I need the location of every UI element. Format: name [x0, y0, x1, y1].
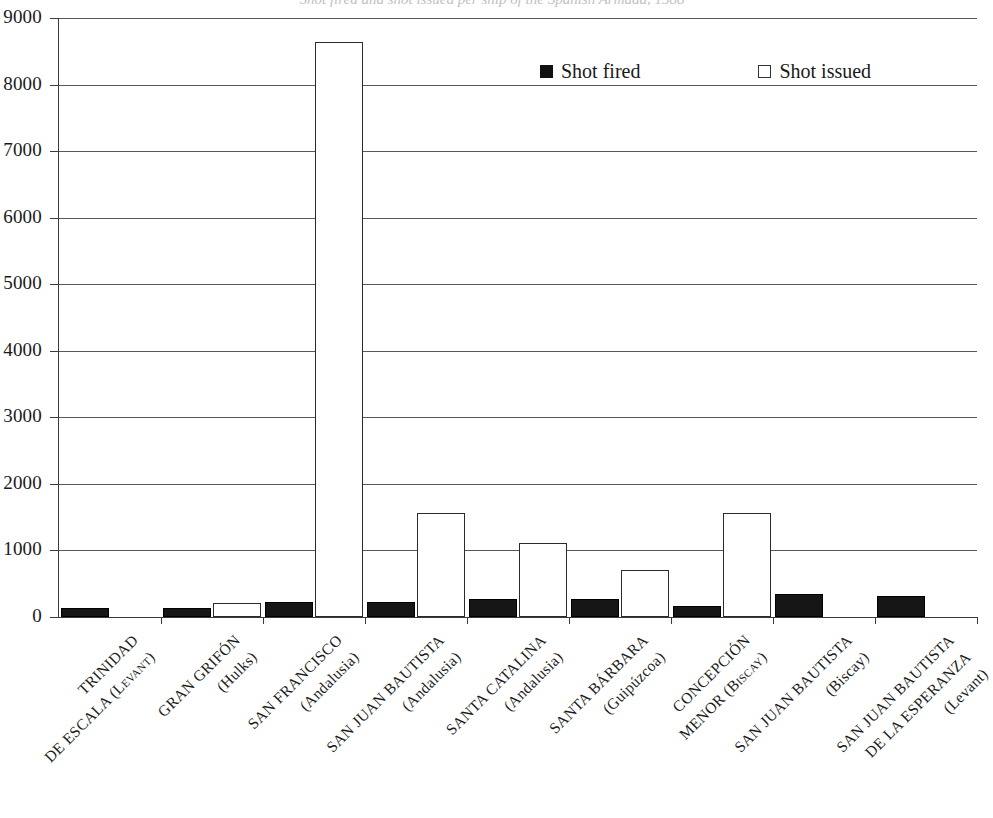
bar-group [773, 18, 875, 617]
y-tick-mark [50, 417, 59, 418]
x-axis-labels: TRINIDADDE ESCALA (Levant)GRAN GRIFÓN(Hu… [58, 617, 976, 818]
legend-label-shot-fired: Shot fired [561, 60, 640, 83]
y-tick-label: 4000 [3, 339, 42, 361]
y-tick-mark [50, 351, 59, 352]
y-tick-mark [50, 284, 59, 285]
hollow-square-swatch-icon [758, 65, 771, 78]
y-tick-label: 5000 [3, 272, 42, 294]
legend-label-shot-issued: Shot issued [779, 60, 871, 83]
y-tick-label: 0 [32, 605, 42, 627]
y-tick-label: 3000 [3, 405, 42, 427]
y-tick-label: 7000 [3, 139, 42, 161]
y-tick-label: 1000 [3, 538, 42, 560]
bar-shot-fired[interactable] [61, 608, 109, 617]
bar-group [263, 18, 365, 617]
bar-group [365, 18, 467, 617]
y-tick-mark [50, 484, 59, 485]
y-tick-label: 2000 [3, 472, 42, 494]
bar-group [569, 18, 671, 617]
y-tick-label: 6000 [3, 206, 42, 228]
filled-square-swatch-icon [540, 65, 553, 78]
chart-title: Shot fired and shot issued per ship of t… [299, 0, 684, 8]
legend-item-shot-fired: Shot fired [540, 60, 640, 83]
chart-legend: Shot fired Shot issued [540, 60, 871, 83]
legend-item-shot-issued: Shot issued [758, 60, 871, 83]
bar-group [161, 18, 263, 617]
plot-area [58, 18, 977, 618]
y-tick-label: 9000 [3, 6, 42, 28]
y-tick-label: 8000 [3, 73, 42, 95]
y-tick-mark [50, 218, 59, 219]
chart-title-strip: Shot fired and shot issued per ship of t… [0, 0, 984, 14]
y-tick-mark [50, 85, 59, 86]
bar-group [59, 18, 161, 617]
y-tick-mark [50, 550, 59, 551]
y-tick-mark [50, 18, 59, 19]
y-tick-mark [50, 151, 59, 152]
bar-group [671, 18, 773, 617]
bar-shot-issued[interactable] [315, 42, 363, 617]
